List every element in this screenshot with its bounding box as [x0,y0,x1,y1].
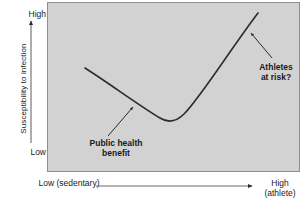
annotation-public-health-benefit: Public health benefit [74,138,158,158]
annotation-athletes-at-risk: Athletes at risk? [248,62,303,82]
chart-figure: Susceptibility to infection High Low Low… [0,0,303,211]
y-axis-label-low: Low [14,147,46,157]
x-axis-label-low: Low (sedentary) [38,178,100,188]
y-axis-title: Susceptibility to infection [19,14,28,164]
x-axis-label-high: High (athlete) [256,178,303,198]
y-axis-label-high: High [14,9,46,19]
